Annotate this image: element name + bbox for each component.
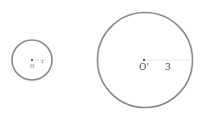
small-circle-group: O 1 [12,40,52,80]
small-radius-label: 1 [41,59,44,64]
large-center-label: O' [139,62,149,72]
large-radius-label: 3 [165,62,171,72]
large-circle-group: O' 3 [98,13,193,108]
small-center-point [31,59,33,61]
circles-diagram: O 1 O' 3 [0,0,204,118]
small-center-label: O [30,63,34,69]
large-center-point [143,59,145,61]
